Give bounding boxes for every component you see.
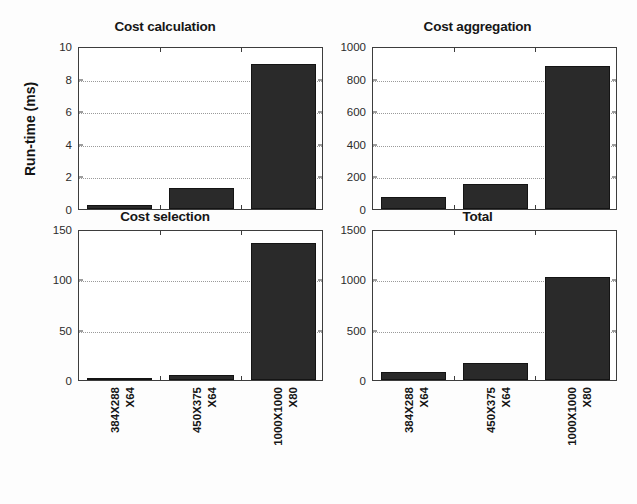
y-tick-mark [372, 280, 377, 281]
x-tick-label-line: X64 [124, 387, 136, 407]
y-tick-mark [372, 177, 377, 178]
x-tick-label-line: 450X375 [191, 387, 203, 433]
y-tick-mark [612, 112, 617, 113]
plot-area-cost-aggregation [372, 47, 617, 210]
y-tick-mark [612, 144, 617, 145]
y-tick-label: 0 [30, 375, 72, 387]
y-tick-label: 1500 [324, 224, 366, 236]
y-tick-mark [612, 79, 617, 80]
bar [545, 66, 610, 209]
x-tick-mark [454, 376, 455, 381]
panel-title-cost-aggregation: Cost aggregation [318, 18, 637, 36]
y-tick-mark [612, 330, 617, 331]
figure-canvas: Cost calculation 0246810 Run-time (ms) C… [0, 0, 637, 504]
bar [169, 375, 234, 380]
x-tick-label-line: 384X288 [403, 387, 415, 433]
x-tick-mark [241, 376, 242, 381]
panel-cost-selection: Cost selection 050100150384X288X64450X37… [0, 208, 330, 504]
panel-cost-aggregation: Cost aggregation 02004006008001000 [318, 18, 637, 208]
y-tick-label: 600 [324, 106, 366, 118]
y-tick-mark [78, 330, 83, 331]
x-tick-mark [241, 47, 242, 52]
y-tick-label: 1000 [324, 274, 366, 286]
plot-area-total [372, 230, 617, 381]
y-tick-label: 150 [30, 224, 72, 236]
y-tick-mark [612, 280, 617, 281]
y-tick-mark [78, 112, 83, 113]
y-tick-mark [372, 330, 377, 331]
bars-layer [373, 231, 616, 380]
x-tick-mark [454, 230, 455, 235]
y-tick-label: 100 [30, 274, 72, 286]
y-tick-mark [78, 177, 83, 178]
x-tick-label-line: X64 [418, 387, 430, 407]
y-tick-label: 1000 [324, 41, 366, 53]
y-tick-mark [372, 79, 377, 80]
y-tick-label: 400 [324, 139, 366, 151]
x-tick-mark [241, 230, 242, 235]
y-tick-label: 800 [324, 74, 366, 86]
bar [87, 378, 152, 380]
y-tick-mark [78, 280, 83, 281]
y-axis-label: Run-time (ms) [22, 82, 38, 176]
bars-layer [79, 231, 322, 380]
x-tick-label-line: 450X375 [485, 387, 497, 433]
x-tick-mark [160, 230, 161, 235]
y-tick-mark [372, 144, 377, 145]
bars-layer [79, 48, 322, 209]
bar [251, 64, 316, 209]
bar [169, 188, 234, 209]
y-tick-mark [612, 177, 617, 178]
y-tick-label: 0 [324, 375, 366, 387]
x-tick-label-line: 384X288 [109, 387, 121, 433]
y-tick-mark [78, 144, 83, 145]
x-tick-label-line: X80 [581, 387, 593, 407]
bar [463, 363, 528, 380]
plot-area-cost-calculation [78, 47, 323, 210]
x-tick-label-line: X64 [500, 387, 512, 407]
y-tick-mark [78, 79, 83, 80]
x-tick-label-line: 1000X1000 [272, 387, 284, 446]
x-tick-label-line: X80 [287, 387, 299, 407]
y-tick-mark [372, 112, 377, 113]
y-tick-label: 500 [324, 325, 366, 337]
y-tick-label: 50 [30, 325, 72, 337]
x-tick-label-line: 1000X1000 [566, 387, 578, 446]
panel-cost-calculation: Cost calculation 0246810 Run-time (ms) [0, 18, 330, 208]
x-tick-mark [160, 47, 161, 52]
bar [463, 184, 528, 209]
bar [381, 372, 446, 380]
bar [251, 243, 316, 380]
x-tick-mark [535, 376, 536, 381]
x-tick-label-line: X64 [206, 387, 218, 407]
x-tick-mark [454, 47, 455, 52]
x-tick-mark [535, 230, 536, 235]
x-tick-mark [160, 376, 161, 381]
x-tick-mark [535, 47, 536, 52]
bars-layer [373, 48, 616, 209]
panel-title-cost-calculation: Cost calculation [0, 18, 330, 36]
y-tick-label: 200 [324, 171, 366, 183]
panel-total: Total 050010001500384X288X64450X375X6410… [318, 208, 637, 504]
y-tick-label: 10 [30, 41, 72, 53]
plot-area-cost-selection [78, 230, 323, 381]
bar [545, 277, 610, 380]
